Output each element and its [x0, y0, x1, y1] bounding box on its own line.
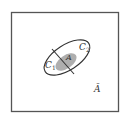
label-a: A: [65, 53, 72, 62]
diagram-canvas: C1 C2 A Ā: [0, 0, 125, 119]
label-a-complement: Ā: [93, 83, 101, 94]
label-c2: C2: [79, 42, 90, 53]
label-c1: C1: [45, 60, 56, 71]
